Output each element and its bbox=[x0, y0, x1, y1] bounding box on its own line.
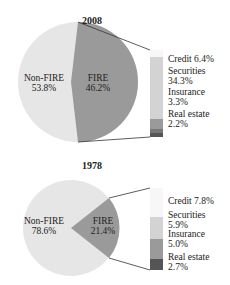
label-credit-1978: Credit 7.8% bbox=[168, 197, 214, 207]
label-securities-2008: Securities 34.3% bbox=[168, 67, 205, 86]
label-fire-2008: FIRE 46.2% bbox=[78, 73, 118, 93]
chart-title-2008: 2008 bbox=[82, 15, 102, 26]
label-insurance-2008: Insurance 3.3% bbox=[168, 88, 205, 107]
label-insurance-1978: Insurance 5.0% bbox=[168, 230, 205, 249]
label-nonfire-1978: Non-FIRE 78.6% bbox=[20, 216, 68, 236]
bar-1978 bbox=[150, 188, 163, 270]
label-nonfire-2008: Non-FIRE 53.8% bbox=[20, 73, 68, 93]
chart-title-1978: 1978 bbox=[82, 160, 102, 171]
label-realestate-2008: Real estate 2.2% bbox=[168, 110, 209, 129]
label-securities-1978: Securities 5.9% bbox=[168, 211, 205, 230]
label-realestate-1978: Real estate 2.7% bbox=[168, 253, 209, 272]
bar-2008 bbox=[150, 50, 163, 137]
label-fire-1978: FIRE 21.4% bbox=[86, 216, 120, 236]
label-credit-2008: Credit 6.4% bbox=[168, 55, 214, 65]
